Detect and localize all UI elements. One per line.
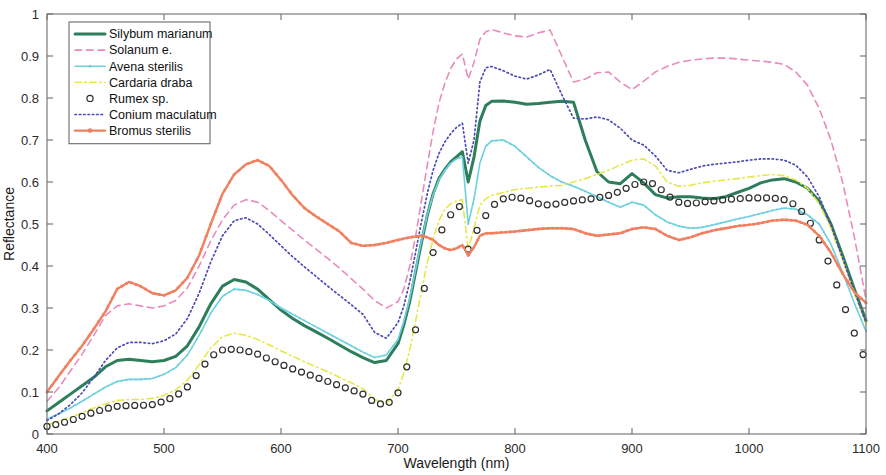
data-marker <box>70 417 76 423</box>
data-marker <box>575 186 577 188</box>
data-marker <box>720 222 722 224</box>
data-marker <box>701 226 703 228</box>
data-marker <box>733 225 736 228</box>
data-marker <box>325 379 331 385</box>
data-marker <box>78 347 81 350</box>
data-marker <box>130 378 132 380</box>
data-marker <box>346 342 348 344</box>
data-marker <box>397 238 400 241</box>
data-marker <box>177 286 180 289</box>
data-marker <box>97 390 99 392</box>
data-marker <box>331 226 334 229</box>
data-marker <box>650 210 652 212</box>
data-marker <box>719 228 722 231</box>
legend[interactable]: Silybum marianumSolanum e.Avena sterilis… <box>69 22 217 144</box>
data-marker <box>439 244 442 247</box>
data-marker <box>776 219 779 222</box>
data-marker <box>345 237 348 240</box>
data-marker <box>252 292 254 294</box>
data-marker <box>843 307 849 313</box>
data-marker <box>191 346 193 348</box>
x-tick-label: 1100 <box>852 441 880 456</box>
data-marker <box>289 191 292 194</box>
data-marker <box>739 217 741 219</box>
data-marker <box>855 293 858 296</box>
data-marker <box>251 160 254 163</box>
data-marker <box>518 230 521 233</box>
data-marker <box>425 219 427 221</box>
x-tick-label: 500 <box>153 441 175 456</box>
data-marker <box>392 345 394 347</box>
data-marker <box>673 223 675 225</box>
data-marker <box>105 405 111 411</box>
data-marker <box>584 232 587 235</box>
series-4 <box>44 179 866 429</box>
data-marker <box>678 225 680 227</box>
data-marker <box>631 201 633 203</box>
data-marker <box>860 297 863 300</box>
data-marker <box>532 228 535 231</box>
data-marker <box>463 169 465 171</box>
data-marker <box>351 388 357 394</box>
data-marker <box>186 354 188 356</box>
data-marker <box>289 312 291 314</box>
data-marker <box>500 139 502 141</box>
data-marker <box>504 231 507 234</box>
data-marker <box>486 144 488 146</box>
data-marker <box>523 154 525 156</box>
data-marker <box>74 404 76 406</box>
legend-label: Cardaria draba <box>109 76 192 90</box>
data-marker <box>808 226 811 229</box>
legend-label: Rumex sp. <box>109 92 169 106</box>
data-marker <box>570 184 572 186</box>
data-marker <box>360 391 366 397</box>
data-marker <box>153 292 156 295</box>
data-marker <box>471 247 474 250</box>
data-marker <box>757 222 760 225</box>
data-marker <box>429 237 432 240</box>
data-marker <box>247 290 249 292</box>
data-marker <box>693 200 699 206</box>
data-marker <box>673 237 676 240</box>
data-marker <box>205 321 207 323</box>
data-marker <box>626 229 629 232</box>
data-marker <box>144 378 146 380</box>
data-marker <box>448 212 454 218</box>
data-marker <box>729 226 732 229</box>
series-0 <box>47 101 866 411</box>
data-marker <box>125 282 128 285</box>
data-marker <box>246 349 252 355</box>
data-marker <box>659 217 661 219</box>
data-marker <box>79 413 85 419</box>
x-tick-label: 900 <box>621 441 643 456</box>
data-marker <box>377 401 383 407</box>
data-marker <box>202 361 208 367</box>
data-marker <box>88 396 90 398</box>
x-tick-label: 1000 <box>735 441 764 456</box>
data-marker <box>191 267 194 270</box>
data-marker <box>316 375 322 381</box>
data-marker <box>632 182 638 188</box>
y-tick-label: 0.2 <box>21 343 39 358</box>
data-marker <box>692 227 694 229</box>
data-marker <box>196 338 198 340</box>
data-marker <box>144 288 147 291</box>
data-marker <box>378 243 381 246</box>
data-marker <box>444 169 446 171</box>
data-marker <box>93 393 95 395</box>
data-marker <box>785 218 788 221</box>
data-marker <box>495 140 497 142</box>
y-tick-label: 0 <box>32 427 39 442</box>
data-marker <box>574 228 577 231</box>
data-marker <box>350 345 352 347</box>
data-marker <box>616 232 619 235</box>
data-marker <box>317 327 319 329</box>
legend-marker <box>88 128 93 133</box>
legend-label: Conium maculatum <box>109 108 217 122</box>
data-marker <box>456 204 462 210</box>
data-marker <box>64 365 67 368</box>
data-marker <box>416 263 418 265</box>
data-marker <box>458 157 460 159</box>
chart-canvas: 4005006007008009001000110000.10.20.30.40… <box>0 0 886 475</box>
data-marker <box>114 403 120 409</box>
